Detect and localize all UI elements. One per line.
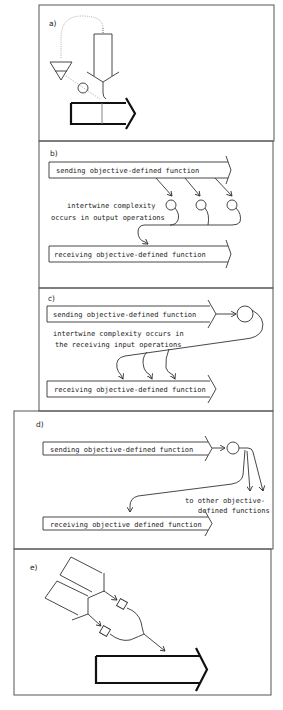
sending-arrow-head [226, 156, 231, 184]
lower-diamond [100, 626, 111, 637]
merge-arrow [145, 242, 148, 244]
upper-merge [127, 608, 144, 634]
panel-d: d) sending objective-defined function to… [14, 411, 273, 549]
sending-label: sending objective-defined function [50, 446, 193, 454]
upper-connector [88, 591, 104, 614]
branch-3 [166, 349, 173, 375]
upper-diamond [117, 599, 128, 610]
receiving-arrow-head [226, 240, 231, 268]
sending-label: sending objective-defined function [56, 167, 199, 175]
branch-arrow-3 [173, 375, 175, 379]
thick-arrow-head [126, 98, 135, 129]
panel-e-label: e) [30, 563, 38, 572]
note-line-1: intertwine complexity [67, 202, 156, 210]
loop-2 [205, 208, 209, 225]
output-arrow-3 [215, 178, 232, 196]
branch-arrow-2 [150, 375, 152, 379]
sending-arrow-head [208, 300, 216, 328]
output-arrow-1 [156, 178, 172, 196]
thick-output-arrow-body [96, 656, 200, 683]
output-circle-1 [166, 200, 176, 210]
upper-to-diamond [104, 591, 117, 600]
output-circle-2 [196, 200, 206, 210]
thick-arrow-body [71, 103, 126, 124]
panel-b: b) sending objective-defined function in… [39, 141, 273, 288]
vertical-function-chevron [87, 72, 119, 82]
output-circle-3 [227, 200, 237, 210]
upper-input-box [60, 557, 102, 592]
thick-output-arrow-head [196, 648, 207, 691]
sending-arrow-head [205, 436, 212, 461]
panel-c: c) sending objective-defined function in… [39, 288, 273, 411]
receiving-arrow-head [208, 375, 216, 403]
note-line-2: defined functions [198, 507, 270, 515]
merge-to-arrow [144, 634, 165, 651]
figure-canvas: a) b) sending objective-defined function [0, 0, 283, 710]
panel-a-label: a) [49, 19, 57, 28]
connector-line [103, 82, 106, 99]
panel-e-frame [14, 549, 271, 695]
lower-merge [110, 634, 144, 640]
small-circle-icon [78, 83, 88, 93]
lower-box-end [72, 614, 88, 620]
note-line-2: occurs in output operations [51, 214, 165, 222]
vertical-function-box [94, 34, 112, 76]
branch-arrow-1 [121, 375, 123, 379]
dotted-feedback-arc [61, 16, 103, 58]
loop-1 [170, 208, 179, 225]
distribution-circle [227, 442, 239, 454]
note-line-2: the receiving input operations [55, 341, 181, 349]
note-line-1: to other objective- [185, 497, 265, 505]
branch-2 [143, 352, 150, 375]
receiving-label: receiving objective defined function [50, 521, 202, 529]
to-other-arrow-1 [247, 451, 250, 491]
panel-a: a) [39, 5, 274, 141]
input-circle [237, 306, 253, 322]
lower-to-diamond [88, 614, 101, 626]
panel-c-label: c) [48, 294, 55, 303]
dotted-link [66, 76, 100, 99]
panel-e: e) [14, 549, 271, 695]
panel-d-label: d) [36, 420, 44, 429]
to-other-arrow-2 [253, 452, 263, 491]
note-line-1: intertwine complexity occurs in [53, 330, 184, 338]
receiving-label: receiving objective-defined function [54, 386, 206, 394]
output-arrow-2 [185, 178, 200, 196]
sending-label: sending objective-defined function [53, 311, 196, 319]
receiving-label: receiving objective-defined function [54, 251, 206, 259]
circle-outlet [239, 448, 253, 452]
panel-a-frame [39, 5, 274, 141]
panel-b-label: b) [50, 149, 58, 158]
